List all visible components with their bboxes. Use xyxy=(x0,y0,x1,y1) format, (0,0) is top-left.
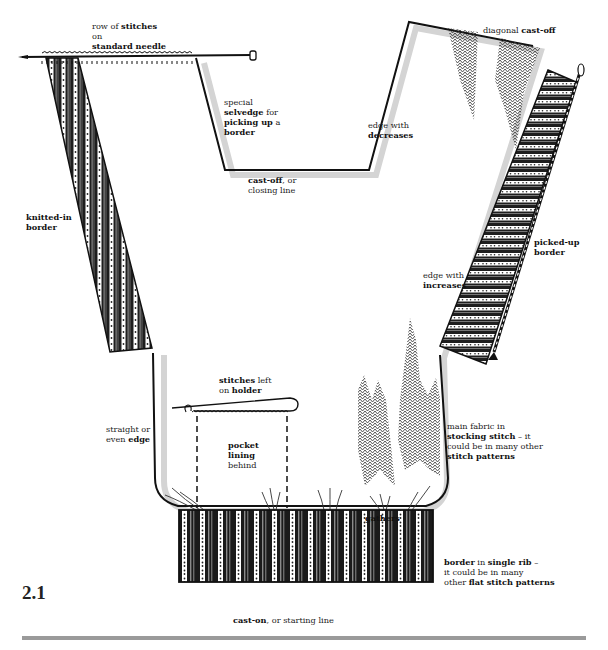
figure-number: 2.1 xyxy=(22,582,46,604)
label-cast-off: cast-off, orclosing line xyxy=(248,175,296,195)
knitting-diagram xyxy=(0,0,608,650)
label-main-fabric: main fabric instocking stitch – itcould … xyxy=(447,421,543,461)
label-cast-on: cast-on, or starting line xyxy=(233,615,334,625)
label-edge-increases: edge withincreases xyxy=(423,270,466,290)
label-pocket-lining: pocketliningbehind xyxy=(228,440,259,470)
label-knitted-in-border: knitted-inborder xyxy=(26,212,72,232)
label-row-of-stitches: row of stitchesonstandard needle xyxy=(92,21,166,51)
label-special-selvedge: specialselvedge forpicking up aborder xyxy=(224,97,280,137)
label-stitches-on-holder: stitches lefton holder xyxy=(219,375,271,395)
stitch-holder xyxy=(172,398,298,412)
label-gathers: gathers xyxy=(365,513,400,523)
garment-outline xyxy=(196,22,533,170)
label-straight-edge: straight oreven edge xyxy=(106,424,150,444)
label-border-single-rib: border in single rib –it could be in man… xyxy=(444,557,555,587)
label-edge-decreases: edge withdecreases xyxy=(368,120,413,140)
stocking-stitch-texture-main xyxy=(358,318,440,486)
bottom-rule-divider xyxy=(22,636,586,640)
knitted-in-border xyxy=(46,58,152,352)
label-picked-up-border: picked-upborder xyxy=(534,237,580,257)
label-diagonal-cast-off: diagonal cast-off xyxy=(483,25,556,35)
